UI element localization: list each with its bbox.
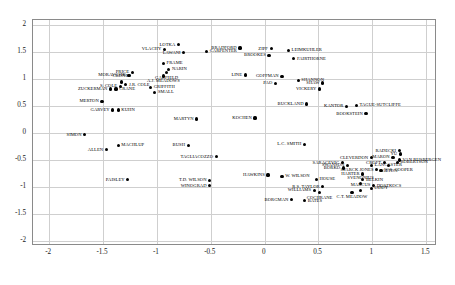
data-point-label: W.S. COOPER bbox=[384, 168, 413, 173]
data-point-marker bbox=[287, 49, 290, 52]
y-axis-tick-label: 1 bbox=[23, 74, 27, 82]
data-point-label: BORKO bbox=[324, 166, 340, 171]
data-point-marker bbox=[280, 75, 283, 78]
data-point-marker bbox=[391, 156, 394, 159]
data-point-marker bbox=[313, 189, 316, 192]
data-point-marker bbox=[315, 178, 318, 181]
y-axis-tick-label: -1 bbox=[20, 182, 26, 190]
y-axis-tick-label: 0 bbox=[23, 128, 27, 136]
data-point-marker bbox=[162, 74, 165, 77]
data-point-marker bbox=[345, 105, 348, 108]
gridline-vertical bbox=[157, 20, 158, 244]
data-point-label: TAGUE-SUTCLIFFE bbox=[359, 103, 400, 108]
y-axis-tick-label: -2 bbox=[20, 236, 26, 244]
data-point-marker bbox=[280, 175, 283, 178]
y-axis-tick-label: 0.5 bbox=[17, 101, 26, 109]
y-axis-tick-label: 1.5 bbox=[17, 47, 26, 55]
data-point-marker bbox=[370, 187, 373, 190]
gridline-horizontal bbox=[33, 79, 435, 80]
data-point-label: BATES bbox=[308, 199, 322, 204]
x-axis-tick-label: 1 bbox=[370, 248, 374, 256]
x-axis-tick-label: 1.5 bbox=[421, 248, 430, 256]
data-point-marker bbox=[297, 79, 300, 82]
data-point-label: WILLIAMS bbox=[288, 188, 311, 193]
data-point-label: ODDY bbox=[375, 186, 388, 191]
data-point-label: KOCHEN bbox=[232, 116, 251, 121]
data-point-marker bbox=[205, 50, 208, 53]
data-point-marker bbox=[187, 144, 190, 147]
x-axis-tick-label: -1.5 bbox=[97, 248, 108, 256]
data-point-marker bbox=[109, 87, 112, 90]
data-point-label: KUHN bbox=[121, 108, 134, 113]
data-point-marker bbox=[305, 102, 308, 105]
data-point-label: BROOKES bbox=[244, 53, 266, 58]
y-axis-tick-label: -0.5 bbox=[15, 155, 26, 163]
data-point-marker bbox=[114, 87, 117, 90]
data-point-label: LEIMKUHLER bbox=[292, 48, 322, 53]
data-point-label: W. WILSON bbox=[285, 174, 309, 179]
data-point-marker bbox=[270, 47, 273, 50]
data-point-marker bbox=[350, 191, 353, 194]
data-point-label: A.J. MEADOWS bbox=[147, 79, 180, 84]
gridline-vertical bbox=[426, 20, 427, 244]
data-point-label: PAISLEY bbox=[106, 178, 125, 183]
data-point-label: CLEVERDON bbox=[340, 156, 368, 161]
x-axis-tick-label: -1 bbox=[153, 248, 159, 256]
data-point-label: HAWKINS bbox=[243, 173, 265, 178]
data-point-label: FRAME bbox=[167, 61, 183, 66]
data-point-label: GOFFMAN bbox=[256, 74, 279, 79]
data-point-label: ALLEN bbox=[88, 148, 103, 153]
y-axis-tick-label: 2 bbox=[23, 20, 27, 28]
data-point-marker bbox=[266, 173, 269, 176]
gridline-vertical bbox=[103, 20, 104, 244]
y-axis-tick-label: -1.5 bbox=[15, 209, 26, 217]
x-axis-tick-label: 0.5 bbox=[313, 248, 322, 256]
data-point-marker bbox=[244, 73, 247, 76]
data-point-label: HOUSE bbox=[320, 177, 336, 182]
data-point-label: SMALL bbox=[158, 90, 174, 95]
data-point-marker bbox=[117, 144, 120, 147]
data-point-label: MARTYN bbox=[174, 117, 194, 122]
data-point-label: WINOGRAD bbox=[181, 184, 207, 189]
data-point-label: BRADFORD bbox=[211, 46, 236, 51]
data-point-label: VLACHY bbox=[142, 47, 161, 52]
data-point-marker bbox=[379, 169, 382, 172]
data-point-label: GARVEY bbox=[91, 108, 110, 113]
gridline-vertical bbox=[372, 20, 373, 244]
data-point-label: LAWANI bbox=[163, 51, 181, 56]
gridline-vertical bbox=[318, 20, 319, 244]
gridline-horizontal bbox=[33, 133, 435, 134]
data-point-label: CRONIN bbox=[112, 74, 130, 79]
gridline-vertical bbox=[49, 20, 50, 244]
data-point-label: FAIRTHORNE bbox=[297, 57, 326, 62]
data-point-label: ZIPF bbox=[258, 47, 268, 52]
data-point-label: MARCUS bbox=[351, 183, 371, 188]
data-point-label: CRANE bbox=[119, 87, 135, 92]
data-point-marker bbox=[318, 87, 321, 90]
data-point-marker bbox=[149, 86, 152, 89]
data-point-label: BUCKLAND bbox=[278, 102, 304, 107]
data-point-marker bbox=[131, 71, 134, 74]
gridline-horizontal bbox=[33, 25, 435, 26]
data-point-label: SIMON bbox=[67, 133, 82, 138]
data-point-label: TAGLIACOZZO bbox=[180, 155, 213, 160]
x-axis-tick-label: 0 bbox=[262, 248, 266, 256]
data-point-marker bbox=[399, 152, 402, 155]
data-point-label: BORGMAN bbox=[265, 198, 289, 203]
gridline-horizontal bbox=[33, 214, 435, 215]
x-axis-tick-label: -2 bbox=[45, 248, 51, 256]
data-point-label: SHAW bbox=[306, 81, 319, 86]
data-point-marker bbox=[100, 100, 103, 103]
data-point-marker bbox=[253, 116, 256, 119]
data-point-marker bbox=[364, 112, 367, 115]
data-point-label: C.T. MEADOW bbox=[337, 195, 368, 200]
data-point-marker bbox=[117, 108, 120, 111]
data-point-label: MACHLUP bbox=[121, 143, 144, 148]
data-point-label: SVENONIUS bbox=[347, 176, 373, 181]
data-point-marker bbox=[120, 80, 123, 83]
gridline-horizontal bbox=[33, 241, 435, 242]
data-point-label: ROBERTSON bbox=[400, 160, 428, 165]
data-point-label: MERTON bbox=[79, 99, 98, 104]
data-point-label: ZUCKERMAN bbox=[78, 87, 108, 92]
data-point-marker bbox=[355, 104, 358, 107]
